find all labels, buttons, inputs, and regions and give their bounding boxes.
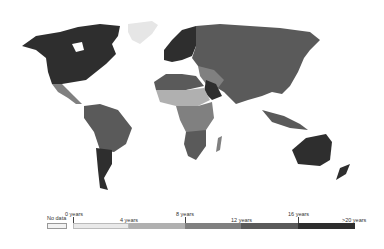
region-central-africa <box>176 102 214 136</box>
region-north-america <box>22 24 120 84</box>
legend-label-12: 12 years <box>231 217 252 223</box>
tick-16 <box>298 217 299 223</box>
legend-nodata-label: No data <box>47 215 66 221</box>
legend-bin-4-8 <box>129 223 185 229</box>
legend-label-4: 4 years <box>120 217 138 223</box>
legend-label-0: 0 years <box>65 211 83 217</box>
region-greenland <box>128 21 158 44</box>
region-australia <box>292 134 332 166</box>
region-southeast-asia <box>262 110 308 130</box>
legend-bin-12-16 <box>241 223 298 229</box>
world-map <box>0 0 384 210</box>
legend-bin-8-12 <box>185 223 241 229</box>
tick-0 <box>73 217 74 223</box>
region-sahel <box>156 88 210 106</box>
legend: No data 0 years 4 years 8 years 12 years… <box>0 200 384 249</box>
legend-bin-0-4 <box>73 223 129 229</box>
tick-8 <box>185 217 186 223</box>
legend-nodata-swatch <box>47 223 67 229</box>
region-south-america-south <box>96 148 112 190</box>
region-southern-africa <box>184 130 206 160</box>
legend-bin-16-20 <box>298 223 355 229</box>
legend-label-16: 16 years <box>288 211 309 217</box>
region-new-zealand <box>336 164 350 180</box>
legend-label-8: 8 years <box>176 211 194 217</box>
legend-label-20: >20 years <box>342 217 366 223</box>
region-madagascar <box>216 136 222 152</box>
region-mexico <box>52 84 82 104</box>
region-south-america-north <box>84 104 132 152</box>
